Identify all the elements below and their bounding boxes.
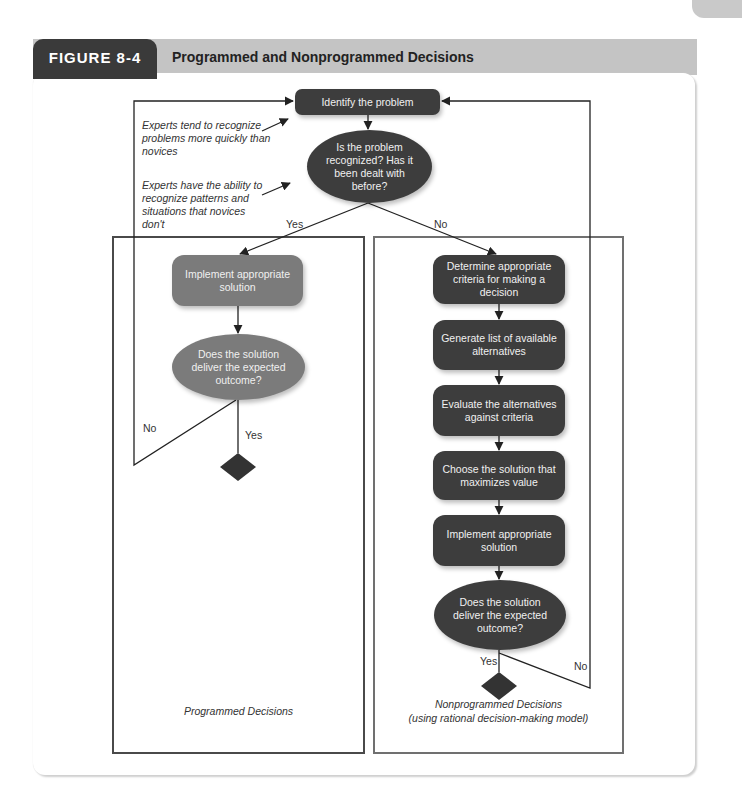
nonprogrammed-step-5: Implement appropriate solution [433,515,565,566]
nonprogrammed-step-1: Determine appropriate criteria for makin… [433,255,565,304]
programmed-panel-label: Programmed Decisions [114,704,363,718]
nonprogrammed-step-5-text: Implement appropriate solution [441,528,557,554]
nonprogrammed-yes-label: Yes [480,655,497,667]
top-no-label: No [434,218,447,230]
nonprogrammed-step-4-text: Choose the solution that maximizes value [441,463,557,489]
programmed-outcome-decision: Does the solution deliver the expected o… [172,334,305,400]
problem-recognized-decision: Is the problem recognized? Has it been d… [307,130,432,203]
problem-recognized-text: Is the problem recognized? Has it been d… [321,141,418,193]
nonprogrammed-step-3-text: Evaluate the alternatives against criter… [441,398,557,424]
nonprogrammed-panel-label-2: (using rational decision-making model) [375,711,622,725]
top-yes-label: Yes [286,218,303,230]
programmed-outcome-text: Does the solution deliver the expected o… [186,348,291,387]
programmed-decisions-panel: Programmed Decisions [112,236,365,754]
figure-title: Programmed and Nonprogrammed Decisions [172,49,474,65]
programmed-no-label: No [143,422,156,434]
identify-problem-text: Identify the problem [321,96,413,109]
nonprogrammed-step-2-text: Generate list of available alternatives [441,332,557,358]
nonprogrammed-outcome-text: Does the solution deliver the expected o… [448,596,552,635]
figure-number: FIGURE 8-4 [49,49,142,66]
nonprogrammed-panel-label-1: Nonprogrammed Decisions [375,697,622,711]
annotation-experts-recognize: Experts tend to recognize problems more … [142,119,272,158]
nonprogrammed-step-4: Choose the solution that maximizes value [433,451,565,500]
nonprogrammed-step-2: Generate list of available alternatives [433,320,565,370]
figure-number-tab: FIGURE 8-4 [33,39,157,79]
identify-problem-node: Identify the problem [295,89,440,115]
nonprogrammed-outcome-decision: Does the solution deliver the expected o… [434,580,566,650]
nonprogrammed-step-1-text: Determine appropriate criteria for makin… [441,260,557,299]
programmed-implement-text: Implement appropriate solution [180,268,295,294]
annotation-experts-patterns: Experts have the ability to recognize pa… [142,179,270,231]
page-corner-tab [692,0,742,18]
programmed-implement-node: Implement appropriate solution [172,255,303,306]
nonprogrammed-no-label: No [574,660,587,672]
programmed-yes-label: Yes [245,429,262,441]
nonprogrammed-step-3: Evaluate the alternatives against criter… [433,385,565,436]
